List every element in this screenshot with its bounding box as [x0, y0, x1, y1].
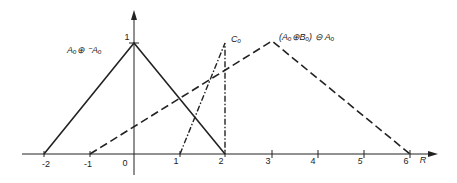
series-a-label: Aₒ⊕ ⁻Aₒ: [66, 45, 102, 55]
series-b-label: (Aₒ⊕Bₒ) ⊖ Aₒ: [279, 32, 335, 42]
y-tick-label: 1: [124, 32, 129, 42]
series-b-line: [90, 41, 410, 154]
series-c-line: [180, 43, 225, 154]
x-axis: -2 -1 0 1 2 3 4 5 6 R: [22, 150, 438, 169]
x-tick-label: -2: [42, 159, 50, 169]
x-axis-arrow-icon: [428, 151, 438, 157]
series-c-label: Cₒ: [231, 34, 241, 44]
x-tick-label: -1: [84, 159, 92, 169]
x-tick-label: 6: [403, 156, 408, 166]
x-tick-label: 3: [265, 156, 270, 166]
x-tick-label: 1: [173, 156, 178, 166]
x-tick-label: 0: [122, 158, 127, 168]
x-axis-label: R: [420, 155, 427, 165]
y-axis-arrow-icon: [131, 10, 137, 20]
x-tick-label: 5: [357, 156, 363, 166]
x-tick-label: 2: [218, 156, 223, 166]
x-tick-label: 4: [310, 156, 315, 166]
fuzzy-set-diagram: -2 -1 0 1 2 3 4 5 6 R 1 Aₒ⊕ ⁻Aₒ (Aₒ⊕Bₒ) …: [0, 0, 457, 183]
y-axis: 1: [124, 10, 139, 175]
